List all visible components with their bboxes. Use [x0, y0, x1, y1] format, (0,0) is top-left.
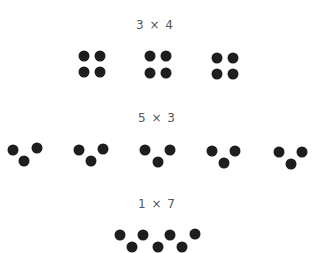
dot	[212, 69, 223, 80]
dot	[165, 230, 176, 241]
dot	[212, 53, 223, 64]
dot	[161, 51, 172, 62]
dot	[74, 145, 85, 156]
dot	[145, 68, 156, 79]
dot	[228, 69, 239, 80]
dot	[153, 157, 164, 168]
row-label: 5 × 3	[138, 111, 176, 125]
dot	[165, 145, 176, 156]
dot	[161, 68, 172, 79]
dot	[140, 145, 151, 156]
dot	[8, 145, 19, 156]
dot	[230, 146, 241, 157]
dot	[219, 158, 230, 169]
dot	[297, 147, 308, 158]
dot	[98, 144, 109, 155]
row-label: 1 × 7	[138, 197, 176, 211]
dot	[79, 67, 90, 78]
dot	[19, 156, 30, 167]
dot	[145, 51, 156, 62]
row-label: 3 × 4	[136, 18, 174, 32]
dot	[207, 146, 218, 157]
dot	[274, 147, 285, 158]
dot	[190, 229, 201, 240]
dot	[95, 51, 106, 62]
dot	[79, 51, 90, 62]
dot	[86, 156, 97, 167]
dot	[32, 143, 43, 154]
dot	[286, 159, 297, 170]
dot	[95, 67, 106, 78]
dot	[177, 242, 188, 253]
dot	[138, 230, 149, 241]
dot	[153, 242, 164, 253]
dot	[228, 53, 239, 64]
dot	[127, 242, 138, 253]
dot	[115, 230, 126, 241]
